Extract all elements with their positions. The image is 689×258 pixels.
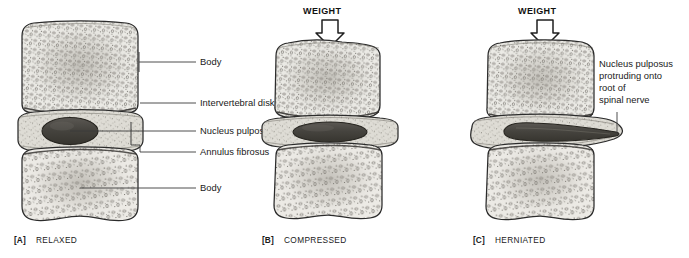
- vertebral-body-upper-b: [275, 40, 380, 120]
- vertebral-body-upper-c: [487, 40, 594, 122]
- nucleus-pulposus-b: [293, 122, 367, 142]
- caption-text-a: RELAXED: [36, 235, 77, 245]
- label-herniation-line-2: protruding onto: [599, 70, 662, 81]
- label-annulus-fibrosus: Annulus fibrosus: [200, 146, 270, 157]
- label-herniation-line-4: spinal nerve: [599, 94, 650, 105]
- label-intervertebral-disk: Intervertebral disk: [200, 97, 275, 108]
- caption-text-b: COMPRESSED: [284, 235, 347, 245]
- weight-label-b: WEIGHT: [303, 6, 341, 16]
- vertebral-body-lower-b: [274, 143, 382, 219]
- vertebral-body-upper-a: [22, 21, 138, 116]
- spine-disk-diagram: Body Intervertebral disk Nucleus pulposu…: [0, 0, 689, 258]
- label-body-lower: Body: [200, 182, 222, 193]
- caption-tag-a: [A]: [14, 235, 26, 245]
- label-body-upper: Body: [200, 56, 222, 67]
- caption-text-c: HERNIATED: [495, 235, 545, 245]
- caption-tag-b: [B]: [262, 235, 274, 245]
- caption-tag-c: [C]: [473, 235, 485, 245]
- label-herniation-line-3: root of: [599, 82, 626, 93]
- label-herniation-line-1: Nucleus pulposus: [599, 58, 673, 69]
- vertebral-body-lower-a: [22, 147, 138, 221]
- weight-label-c: WEIGHT: [518, 6, 556, 16]
- figure-canvas: Body Intervertebral disk Nucleus pulposu…: [0, 0, 689, 258]
- vertebral-body-lower-c: [486, 143, 594, 220]
